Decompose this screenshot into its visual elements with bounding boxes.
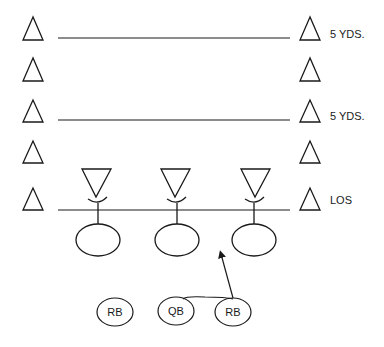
los-label: LOS <box>330 194 352 206</box>
block-arc-icon <box>88 197 107 202</box>
running-back-left-label: RB <box>107 306 122 318</box>
cone-icon <box>300 17 320 40</box>
cone-icon <box>23 188 43 210</box>
cone-icon <box>23 100 43 122</box>
cone-icon <box>23 58 43 81</box>
cone-icon <box>23 141 43 163</box>
defender-left-icon <box>82 169 111 197</box>
running-back-right-label: RB <box>225 306 240 318</box>
cone-icon <box>300 188 320 210</box>
cone-icon <box>23 17 43 40</box>
block-arc-icon <box>167 197 186 202</box>
cone-icon <box>300 100 320 122</box>
handoff-path-arrow <box>221 254 233 298</box>
play-diagram: 5 YDS. 5 YDS. LOS RB QB RB <box>0 0 384 347</box>
lineman-right <box>232 224 276 256</box>
yard-label-middle: 5 YDS. <box>330 110 365 122</box>
cone-icon <box>300 141 320 163</box>
quarterback-label: QB <box>168 305 184 317</box>
right-cones <box>300 17 320 210</box>
left-cones <box>23 17 43 210</box>
lineman-left <box>76 224 120 256</box>
yard-label-top: 5 YDS. <box>330 28 365 40</box>
defender-middle-icon <box>161 169 190 197</box>
cone-icon <box>300 58 320 81</box>
defender-right-icon <box>241 169 270 197</box>
lineman-center <box>155 224 199 256</box>
block-arc-icon <box>245 197 264 202</box>
